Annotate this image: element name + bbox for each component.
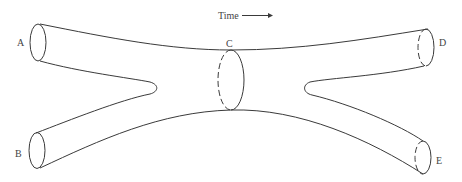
label-e: E (436, 155, 442, 166)
right-crotch-edge (305, 66, 424, 141)
cross-section-c-back (218, 50, 231, 110)
tube-end-d-front (426, 29, 434, 66)
tube-diagram: Time A B C D E (0, 0, 462, 182)
label-a: A (17, 37, 25, 48)
tube-end-e-back (415, 141, 423, 174)
tube-end-b (29, 133, 45, 169)
time-arrow-icon (242, 13, 273, 18)
tube-end-a (30, 24, 46, 61)
label-c: C (226, 38, 233, 49)
tube-end-d-back (418, 29, 426, 66)
tube-bottom-edge (40, 110, 423, 174)
cross-section-c-front (231, 50, 244, 110)
label-d: D (439, 37, 446, 48)
time-label: Time (218, 10, 239, 21)
tube-end-e-front (423, 141, 431, 174)
left-crotch-edge (36, 61, 157, 133)
label-b: B (15, 148, 22, 159)
tube-top-edge (40, 24, 428, 50)
